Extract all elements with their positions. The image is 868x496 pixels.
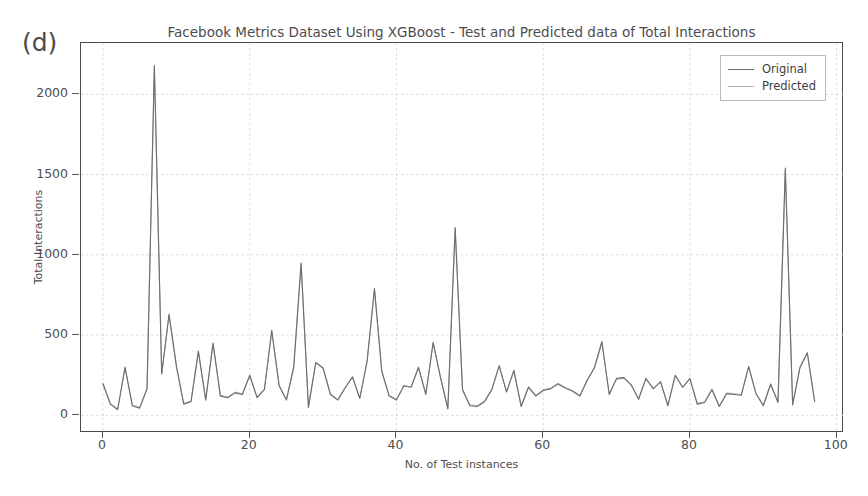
x-tick-mark xyxy=(689,432,690,438)
y-tick-label: 1000 xyxy=(36,246,68,261)
y-axis-label: Total Interactions xyxy=(32,190,45,285)
y-tick-label: 0 xyxy=(60,406,68,421)
x-tick-mark xyxy=(395,432,396,438)
series-line-original xyxy=(103,65,815,409)
legend[interactable]: Original Predicted xyxy=(720,55,826,101)
legend-item-original[interactable]: Original xyxy=(728,61,816,78)
legend-label-original: Original xyxy=(762,61,807,78)
x-tick-label: 20 xyxy=(241,437,257,452)
y-tick-label: 1500 xyxy=(36,166,68,181)
y-tick-label: 2000 xyxy=(36,85,68,100)
x-tick-mark xyxy=(542,432,543,438)
x-tick-label: 60 xyxy=(534,437,550,452)
legend-label-predicted: Predicted xyxy=(762,78,816,95)
series-canvas xyxy=(81,43,844,433)
panel-label: (d) xyxy=(22,28,57,57)
series-line-predicted xyxy=(103,69,815,409)
x-tick-mark xyxy=(102,432,103,438)
legend-swatch-predicted xyxy=(728,86,754,87)
x-tick-label: 40 xyxy=(388,437,404,452)
y-tick-mark xyxy=(72,254,79,255)
y-tick-mark xyxy=(72,334,79,335)
chart-title: Facebook Metrics Dataset Using XGBoost -… xyxy=(80,24,843,40)
y-tick-mark xyxy=(72,174,79,175)
y-tick-label: 500 xyxy=(44,326,68,341)
legend-swatch-original xyxy=(728,69,754,70)
x-tick-label: 0 xyxy=(98,437,106,452)
x-axis-label: No. of Test instances xyxy=(80,458,843,471)
x-tick-mark xyxy=(836,432,837,438)
legend-item-predicted[interactable]: Predicted xyxy=(728,78,816,95)
y-tick-mark xyxy=(72,93,79,94)
chart-figure: (d) Facebook Metrics Dataset Using XGBoo… xyxy=(0,0,868,496)
plot-area: Original Predicted xyxy=(80,42,843,432)
y-tick-mark xyxy=(72,414,79,415)
x-tick-label: 100 xyxy=(824,437,848,452)
x-tick-mark xyxy=(249,432,250,438)
x-tick-label: 80 xyxy=(681,437,697,452)
